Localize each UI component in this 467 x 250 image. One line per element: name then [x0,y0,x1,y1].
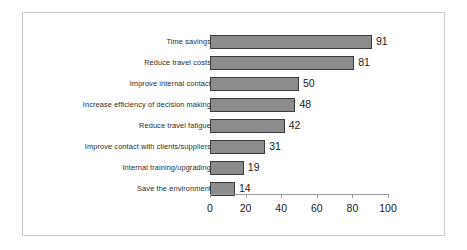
bar-value-label: 48 [299,94,311,115]
bar-row[interactable]: Reduce travel fatigue 42 [23,115,446,136]
category-label: Time savings [167,31,211,52]
bar-value-label: 81 [358,52,370,73]
bar[interactable] [210,98,295,112]
x-axis-tick-label: 0 [195,202,225,214]
category-label: Save the environment [137,178,211,199]
category-label: Increase efficiency of decision making [83,94,211,115]
bar-row[interactable]: Internal training/upgrading 19 [23,157,446,178]
bar[interactable] [210,119,285,133]
x-axis-tick-label: 80 [337,202,367,214]
category-label: Reduce travel fatigue [139,115,211,136]
bar[interactable] [210,77,299,91]
bar-value-label: 50 [303,73,315,94]
category-label: Improve internal contact [130,73,211,94]
x-axis-tick-label: 20 [231,202,261,214]
x-axis-tick-label: 100 [373,202,403,214]
x-axis-tick-label: 40 [266,202,296,214]
bar[interactable] [210,161,244,175]
chart-frame: Time savings 91 Reduce travel costs 81 I… [22,12,445,236]
bar-row[interactable]: Reduce travel costs 81 [23,52,446,73]
bar-row[interactable]: Increase efficiency of decision making 4… [23,94,446,115]
plot-area: Time savings 91 Reduce travel costs 81 I… [23,13,446,237]
category-label: Internal training/upgrading [122,157,211,178]
x-axis-tick [317,194,318,198]
bar-value-label: 19 [248,157,260,178]
bar-value-label: 31 [269,136,281,157]
bar-value-label: 42 [289,115,301,136]
bar-row[interactable]: Save the environment 14 [23,178,446,199]
bar[interactable] [210,140,265,154]
bar-row[interactable]: Improve contact with clients/suppliers 3… [23,136,446,157]
x-axis-tick [210,194,211,198]
bar-row[interactable]: Improve internal contact 50 [23,73,446,94]
x-axis-tick [388,194,389,198]
bar[interactable] [210,35,372,49]
bar-row[interactable]: Time savings 91 [23,31,446,52]
x-axis-tick [352,194,353,198]
x-axis-tick [281,194,282,198]
x-axis-tick [246,194,247,198]
bar-value-label: 91 [376,31,388,52]
category-label: Reduce travel costs [144,52,211,73]
x-axis-line [210,194,388,195]
category-label: Improve contact with clients/suppliers [85,136,211,157]
bar[interactable] [210,56,354,70]
x-axis-tick-label: 60 [302,202,332,214]
